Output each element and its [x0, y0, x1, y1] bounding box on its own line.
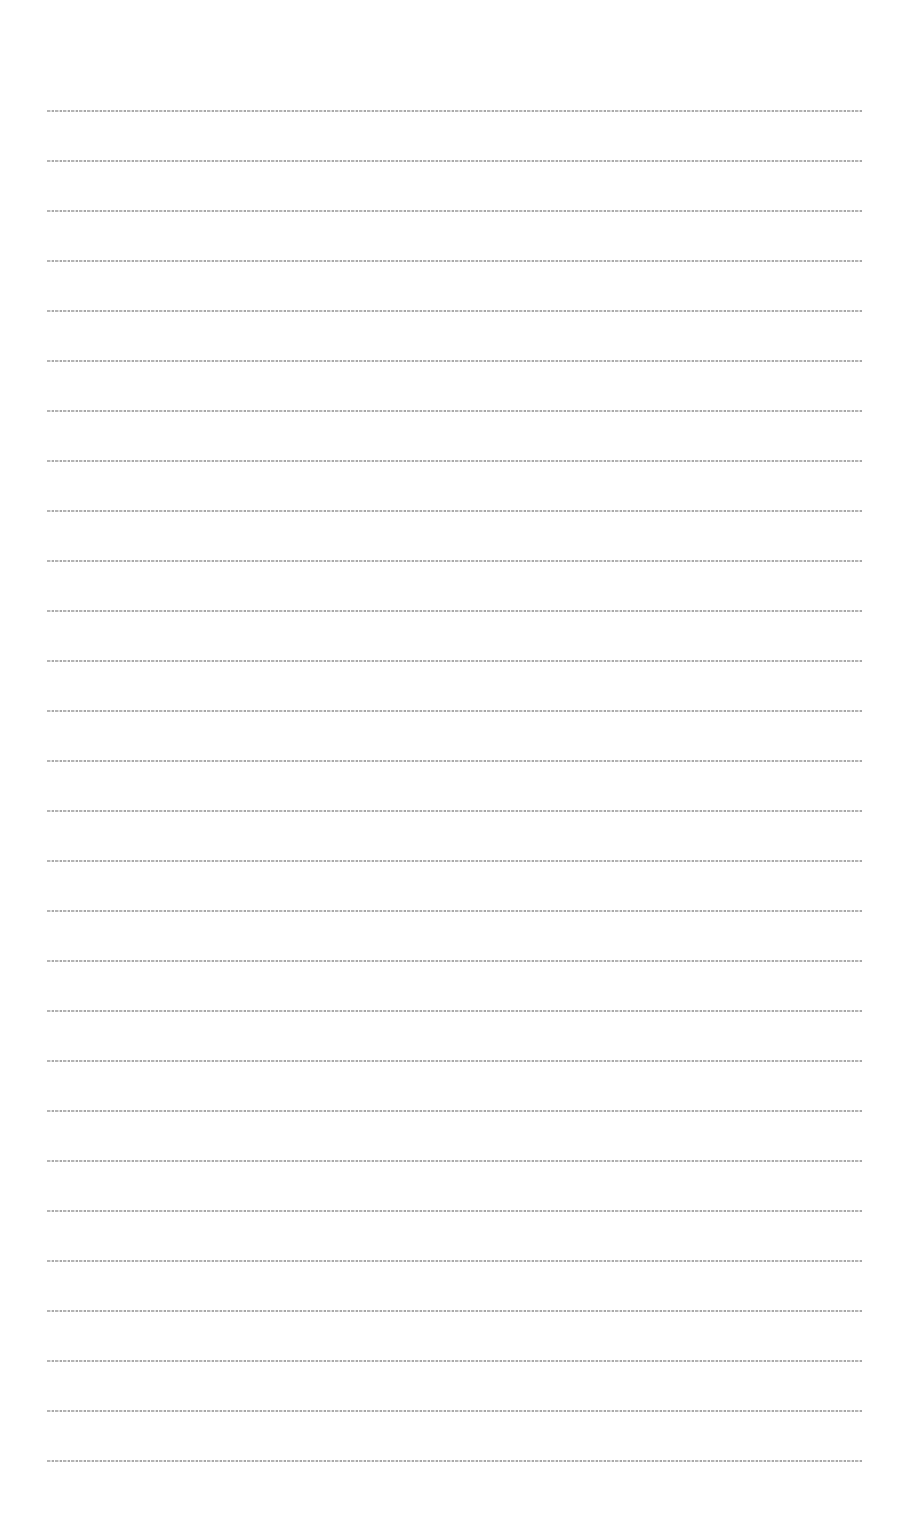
- text-line: [illegible text line 13]: [47, 709, 863, 713]
- text-line: [illegible text line 8]: [47, 459, 863, 463]
- text-line: [illegible text line 9]: [47, 509, 863, 513]
- text-line: [illegible text line 14]: [47, 759, 863, 763]
- text-line: [illegible text line 21]: [47, 1109, 863, 1113]
- text-line: [illegible text line 12]: [47, 659, 863, 663]
- text-line: [illegible text line 16]: [47, 859, 863, 863]
- text-line: [illegible text line 7]: [47, 409, 863, 413]
- text-line: [illegible text line 15]: [47, 809, 863, 813]
- text-line: [illegible text line 4]: [47, 259, 863, 263]
- text-line: [illegible text line 2]: [47, 159, 863, 163]
- text-line: [illegible text line 3]: [47, 209, 863, 213]
- text-line: [illegible text line 25]: [47, 1309, 863, 1313]
- text-line: [illegible text line 11]: [47, 609, 863, 613]
- text-line: [illegible text line 19]: [47, 1009, 863, 1013]
- text-line: [illegible text line 6]: [47, 359, 863, 363]
- text-line: [illegible text line 17]: [47, 909, 863, 913]
- text-line: [illegible text line 10]: [47, 559, 863, 563]
- text-line: [illegible text line 5]: [47, 309, 863, 313]
- document-page: [illegible text line 1][illegible text l…: [0, 0, 907, 1539]
- text-line: [illegible text line 23]: [47, 1209, 863, 1213]
- text-line: [illegible text line 18]: [47, 959, 863, 963]
- text-line: [illegible text line 26]: [47, 1359, 863, 1363]
- text-line: [illegible text line 27]: [47, 1409, 863, 1413]
- text-line: [illegible text line 28]: [47, 1459, 863, 1463]
- text-line: [illegible text line 22]: [47, 1159, 863, 1163]
- text-line: [illegible text line 1]: [47, 109, 863, 113]
- text-line: [illegible text line 24]: [47, 1259, 863, 1263]
- text-line: [illegible text line 20]: [47, 1059, 863, 1063]
